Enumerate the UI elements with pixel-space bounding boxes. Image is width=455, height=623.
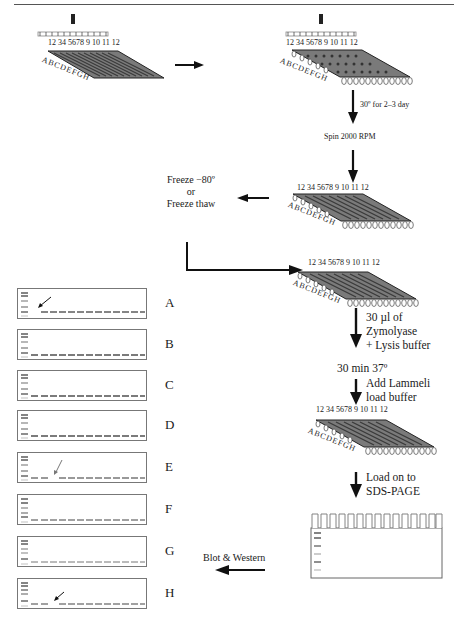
incubate-37-label: 30 min 37º — [337, 361, 387, 375]
elbow-arrow-icon — [185, 242, 305, 272]
blot-panel-d — [17, 410, 147, 441]
freeze-label: Freeze −80º or Freeze thaw — [152, 174, 230, 210]
blot-label-h: H — [165, 586, 174, 600]
arrow-down-icon — [350, 379, 362, 407]
blot-label-a: A — [165, 296, 174, 310]
blot-panel-f — [17, 494, 147, 525]
blot-label: Blot & Western — [203, 552, 265, 564]
arrow-left-icon — [215, 565, 265, 575]
sds-page-gel — [310, 510, 445, 580]
arrow-down-icon — [348, 150, 358, 184]
blot-panel-c — [17, 370, 147, 401]
zymolyase-label: 30 µl of Zymolyase + Lysis buffer — [366, 310, 430, 352]
blot-panel-a — [17, 288, 147, 319]
zymolyase-line-2: Zymolyase — [366, 324, 430, 338]
lammeli-label: Add Lammeli load buffer — [366, 376, 430, 404]
plate-1 — [38, 14, 168, 89]
arrow-right-icon — [175, 60, 205, 70]
blot-label-d: D — [165, 418, 174, 432]
plate-1-column-labels: 12 34 5678 9 10 11 12 — [48, 38, 120, 48]
blot-label-e: E — [165, 460, 173, 474]
arrow-down-icon — [348, 90, 358, 125]
plate-5-column-labels: 12 34 5678 9 10 11 12 — [316, 405, 388, 415]
freeze-line-1: Freeze −80º — [152, 174, 230, 186]
plate-2-column-labels: 12 34 5678 9 10 11 12 — [286, 38, 358, 48]
load-line-2: SDS-PAGE — [366, 484, 420, 498]
arrow-left-icon — [237, 193, 269, 203]
incubate-label: 30º for 2–3 day — [360, 100, 409, 110]
plate-3-column-labels: 12 34 5678 9 10 11 12 — [297, 183, 369, 193]
load-line-1: Load on to — [366, 470, 420, 484]
lammeli-line-1: Add Lammeli — [366, 376, 430, 390]
lammeli-line-2: load buffer — [366, 390, 430, 404]
arrow-down-icon — [350, 472, 362, 500]
top-rule — [14, 4, 454, 5]
zymolyase-line-3: + Lysis buffer — [366, 338, 430, 352]
plate-4-column-labels: 12 34 5678 9 10 11 12 — [308, 258, 380, 268]
blot-label-c: C — [165, 378, 174, 392]
blot-panel-b — [17, 329, 147, 360]
blot-panel-g — [17, 536, 147, 567]
freeze-line-3: Freeze thaw — [152, 198, 230, 210]
blot-panel-h — [17, 578, 147, 609]
spin-label: Spin 2000 RPM — [324, 132, 376, 142]
blot-label-g: G — [165, 544, 174, 558]
load-label: Load on to SDS-PAGE — [366, 470, 420, 498]
zymolyase-line-1: 30 µl of — [366, 310, 430, 324]
blot-label-f: F — [165, 502, 172, 516]
plate-2 — [282, 14, 427, 94]
arrow-down-icon — [350, 308, 362, 350]
freeze-line-2: or — [152, 186, 230, 198]
blot-label-b: B — [165, 337, 174, 351]
blot-panel-e — [17, 452, 147, 483]
